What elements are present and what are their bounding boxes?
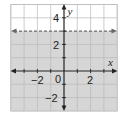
y-axis-label: y [67,5,73,17]
y-tick-label-2: 2 [53,39,59,51]
x-tick-label-2: 2 [87,74,93,86]
x-axis-label: x [107,56,113,68]
x-tick-label-neg2: −2 [31,74,44,86]
y-tick-label-4: 4 [53,12,59,24]
y-tick-label-neg2: −2 [45,92,58,104]
origin-label: 0 [55,73,61,85]
inequality-graph: y x 4 2 −2 −2 0 2 [0,0,119,114]
